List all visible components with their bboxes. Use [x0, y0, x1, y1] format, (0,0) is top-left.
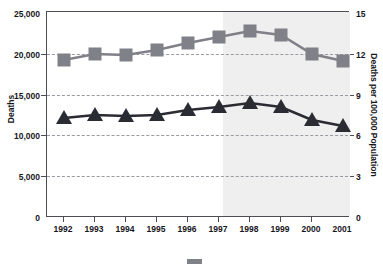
x-axis-tickmark [63, 217, 64, 222]
x-axis-tickmark [156, 217, 157, 222]
x-axis-tickmark [218, 217, 219, 222]
y-axis-left-tick-5000: 5,000 [0, 172, 40, 182]
y-axis-right-tick-0: 0 [356, 213, 378, 223]
y-axis-left-tick-20000: 20,000 [0, 50, 40, 60]
y-axis-left-tick-0: 0 [0, 213, 40, 223]
line-deaths [64, 31, 343, 61]
x-axis-tickmark [125, 217, 126, 222]
x-axis-tickmark [94, 217, 95, 222]
series-layer [47, 12, 350, 218]
marker-group-deaths [58, 25, 350, 68]
plot-area [46, 11, 349, 217]
x-axis-tickmark [187, 217, 188, 222]
y-axis-right-tick-15: 15 [356, 9, 378, 19]
x-axis-tickmark [249, 217, 250, 222]
chart-container: 25,000 20,000 15,000 10,000 5,000 0 15 1… [0, 0, 383, 266]
y-axis-left-title: Deaths [6, 77, 16, 141]
y-axis-right-title: Deaths per 100,000 Population [369, 46, 379, 184]
x-axis-tickmark [280, 217, 281, 222]
line-death-rate [64, 103, 343, 126]
x-axis-tick-2001: 2001 [322, 224, 362, 234]
x-axis-tickmark [311, 217, 312, 222]
legend-swatch-deaths [187, 259, 202, 264]
marker-group-death-rate [56, 95, 351, 132]
y-axis-left-tick-25000: 25,000 [0, 9, 40, 19]
